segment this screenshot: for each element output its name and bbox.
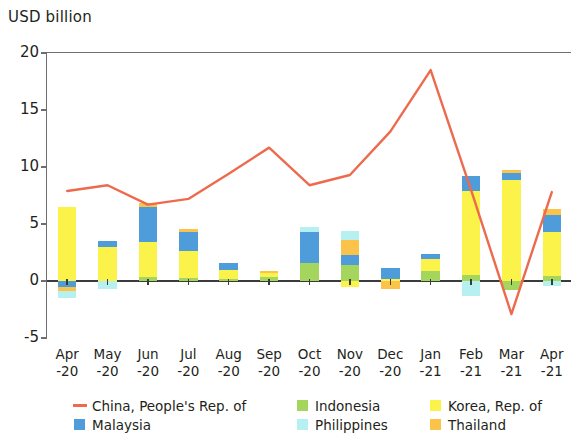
x-tick-label: Apr-21 — [527, 346, 573, 380]
x-tick — [228, 279, 230, 285]
legend-label: Malaysia — [92, 417, 151, 433]
x-tick — [470, 279, 472, 285]
y-tick — [41, 52, 47, 54]
legend-square-icon — [430, 419, 441, 430]
x-tick — [349, 279, 351, 285]
y-axis-title: USD billion — [8, 8, 92, 26]
legend-column: IndonesiaPhilippines — [297, 396, 388, 434]
x-tick — [309, 279, 311, 285]
legend-item[interactable]: Philippines — [297, 415, 388, 434]
x-tick — [390, 279, 392, 285]
legend-item[interactable]: Korea, Rep. of — [430, 396, 542, 415]
legend-label: China, People's Rep. of — [92, 398, 246, 414]
plot-area: -505101520 Apr-20May-20Jun-20Jul-20Aug-2… — [46, 52, 571, 337]
plot-inner — [47, 53, 571, 337]
x-tick — [188, 279, 190, 285]
y-tick-label: 5 — [5, 214, 39, 232]
legend-square-icon — [297, 419, 308, 430]
x-tick — [147, 279, 149, 285]
legend-column: Korea, Rep. ofThailand — [430, 396, 542, 434]
chart-legend: China, People's Rep. ofMalaysiaIndonesia… — [0, 396, 573, 434]
x-tick — [268, 279, 270, 285]
legend-label: Korea, Rep. of — [448, 398, 542, 414]
legend-square-icon — [297, 400, 308, 411]
x-tick — [107, 279, 109, 285]
x-tick — [430, 279, 432, 285]
y-tick-label: 20 — [5, 43, 39, 61]
x-tick-label-year: -21 — [527, 363, 573, 380]
legend-item[interactable]: Thailand — [430, 415, 542, 434]
legend-item[interactable]: China, People's Rep. of — [74, 396, 246, 415]
legend-square-icon — [74, 419, 85, 430]
y-tick-label: 0 — [5, 271, 39, 289]
legend-item[interactable]: Malaysia — [74, 415, 246, 434]
x-tick — [551, 279, 553, 285]
y-tick — [41, 280, 47, 282]
line-series-layer — [47, 53, 572, 338]
legend-square-icon — [430, 400, 441, 411]
y-tick — [41, 337, 47, 339]
legend-label: Philippines — [315, 417, 388, 433]
legend-label: Thailand — [448, 417, 506, 433]
x-tick — [66, 279, 68, 285]
y-tick-label: -5 — [5, 328, 39, 346]
x-tick-label-month: Apr — [527, 346, 573, 363]
y-tick-label: 15 — [5, 100, 39, 118]
legend-line-icon — [73, 404, 87, 407]
legend-column: China, People's Rep. ofMalaysia — [74, 396, 246, 434]
chart-figure: USD billion -505101520 Apr-20May-20Jun-2… — [0, 0, 573, 434]
y-tick — [41, 166, 47, 168]
line-series-china — [67, 70, 552, 314]
legend-label: Indonesia — [315, 398, 380, 414]
x-tick — [511, 279, 513, 285]
legend-item[interactable]: Indonesia — [297, 396, 388, 415]
y-tick — [41, 223, 47, 225]
y-tick — [41, 109, 47, 111]
y-tick-label: 10 — [5, 157, 39, 175]
